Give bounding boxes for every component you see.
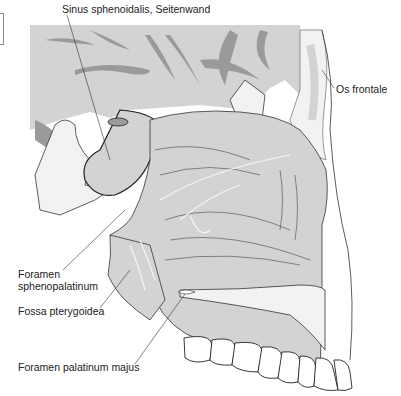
label-foramen-palatinum-majus: Foramen palatinum majus [18, 361, 139, 373]
anatomy-illustration [0, 0, 401, 396]
label-foramen-sphenopalatinum-line2: sphenopalatinum [18, 280, 98, 292]
label-os-frontale: Os frontale [336, 83, 387, 95]
label-fossa-pterygoidea: Fossa pterygoidea [18, 305, 104, 317]
label-sinus-sphenoidalis: Sinus sphenoidalis, Seitenwand [62, 3, 210, 15]
label-foramen-sphenopalatinum-line1: Foramen [18, 268, 60, 280]
